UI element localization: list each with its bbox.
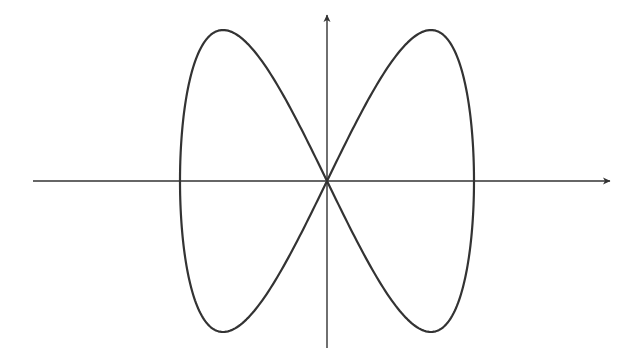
lissajous-plot <box>0 0 640 357</box>
figure-canvas <box>0 0 640 357</box>
